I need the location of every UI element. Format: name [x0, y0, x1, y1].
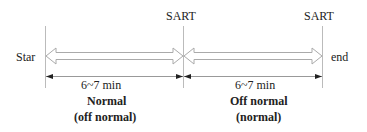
- end-label: end: [331, 51, 348, 63]
- segment-2-alt-state: (normal): [236, 111, 281, 123]
- segment-1-state: Normal: [87, 95, 126, 107]
- segment-1-duration: 6~7 min: [81, 79, 121, 91]
- arrowhead-icon: [176, 74, 183, 79]
- arrowhead-icon: [46, 74, 53, 79]
- sart-marker-label-1: SART: [166, 10, 196, 22]
- segment-2-state: Off normal: [230, 95, 288, 107]
- arrowhead-icon: [184, 74, 191, 79]
- sart-marker-label-2: SART: [304, 10, 334, 22]
- segment-1-double-arrow: [46, 48, 183, 64]
- segment-1-alt-state: (off normal): [74, 111, 136, 123]
- segment-2-double-arrow: [184, 48, 322, 64]
- arrowhead-icon: [315, 74, 322, 79]
- segment-2-duration: 6~7 min: [235, 79, 275, 91]
- start-label: Star: [16, 51, 35, 63]
